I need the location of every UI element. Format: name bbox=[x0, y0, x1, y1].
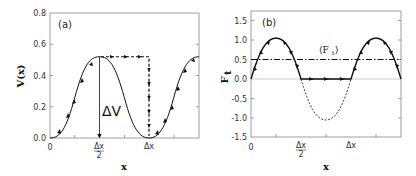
dashed-path-a bbox=[101, 57, 149, 136]
mean-label: ⟨F t ⟩ bbox=[319, 45, 339, 56]
ylabel-a: V(x) bbox=[15, 64, 26, 88]
ytick-b-6: -1.5 bbox=[231, 133, 247, 142]
ylabel-b: F t bbox=[219, 70, 233, 84]
ytick-a-3: 0.6 bbox=[33, 40, 46, 49]
panel-label-a: (a) bbox=[58, 19, 72, 30]
plot-a-frame bbox=[50, 13, 199, 138]
ytick-a-2: 0.4 bbox=[33, 72, 46, 81]
curve-v bbox=[50, 57, 199, 138]
xtick-b-half-denom: 2 bbox=[298, 150, 303, 159]
ytick-b-0: 1.5 bbox=[234, 17, 247, 26]
svg-text:⟨F: ⟨F bbox=[319, 45, 329, 55]
plot-b: 1.5 1.0 0.5 0.0 -0.5 -1.0 -1.5 0 Δx 2 Δx… bbox=[219, 11, 401, 172]
xtick-a-half: Δx bbox=[94, 142, 104, 151]
ytick-b-3: 0.0 bbox=[234, 75, 247, 84]
xtick-a-half-denom: 2 bbox=[96, 151, 101, 160]
xtick-a-full: Δx bbox=[144, 142, 154, 151]
panel-label-b: (b) bbox=[262, 17, 276, 28]
plot-b-frame bbox=[251, 11, 401, 137]
xlabel-b: x bbox=[323, 161, 330, 172]
ytick-a-4: 0.8 bbox=[33, 9, 46, 18]
ytick-b-4: -0.5 bbox=[231, 95, 247, 104]
plot-a: 0.0 0.2 0.4 0.6 0.8 0 Δx 2 Δx x V(x) (a)… bbox=[15, 9, 199, 172]
svg-text:⟩: ⟩ bbox=[335, 45, 339, 55]
xtick-b-half: Δx bbox=[296, 141, 306, 150]
xtick-b-full: Δx bbox=[346, 141, 356, 150]
xtick-b-0: 0 bbox=[248, 143, 253, 152]
xlabel-a: x bbox=[121, 161, 128, 172]
svg-text:t: t bbox=[222, 70, 233, 75]
delta-v-label: ΔV bbox=[102, 103, 122, 119]
curve-ft-dashed bbox=[301, 79, 351, 120]
svg-text:F: F bbox=[219, 76, 230, 83]
xtick-a-0: 0 bbox=[47, 143, 52, 152]
ytick-a-1: 0.2 bbox=[33, 103, 46, 112]
ytick-a-0: 0.0 bbox=[33, 134, 46, 143]
ytick-b-1: 1.0 bbox=[234, 36, 247, 45]
figure: 0.0 0.2 0.4 0.6 0.8 0 Δx 2 Δx x V(x) (a)… bbox=[0, 0, 416, 176]
ytick-b-2: 0.5 bbox=[234, 56, 247, 65]
ytick-b-5: -1.0 bbox=[231, 114, 247, 123]
